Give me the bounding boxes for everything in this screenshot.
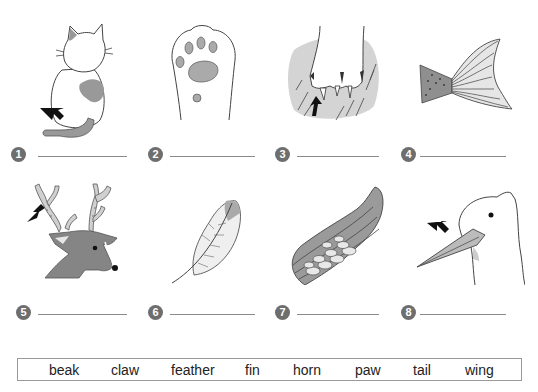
item-number-badge: 4: [401, 147, 416, 162]
item-number-badge: 6: [148, 305, 163, 320]
word-bank: beak claw feather fin horn paw tail wing: [17, 358, 522, 381]
answer-blank-6[interactable]: [170, 314, 255, 315]
word-bank-item: beak: [49, 361, 79, 379]
item-number-badge: 3: [275, 147, 290, 162]
answer-blank-4[interactable]: [420, 156, 506, 157]
deer-horn-illustration: [25, 182, 125, 282]
bird-beak-illustration: [415, 185, 525, 285]
word-bank-item: feather: [171, 361, 215, 379]
word-bank-item: horn: [293, 361, 321, 379]
answer-blank-7[interactable]: [297, 314, 379, 315]
wing-illustration: [285, 185, 395, 285]
cat-paw-illustration: [165, 20, 245, 130]
answer-blank-8[interactable]: [420, 314, 506, 315]
word-bank-item: fin: [245, 361, 260, 379]
feather-illustration: [168, 195, 248, 285]
item-number-badge: 8: [401, 305, 416, 320]
item-number-badge: 1: [11, 147, 26, 162]
word-bank-item: claw: [111, 361, 139, 379]
answer-blank-5[interactable]: [38, 314, 127, 315]
answer-blank-3[interactable]: [297, 156, 379, 157]
answer-blank-1[interactable]: [38, 156, 127, 157]
item-number-badge: 2: [148, 147, 163, 162]
item-number-badge: 7: [275, 305, 290, 320]
answer-blank-2[interactable]: [170, 156, 255, 157]
cat-tail-illustration: [20, 10, 130, 140]
word-bank-item: tail: [413, 361, 431, 379]
item-number-badge: 5: [16, 305, 31, 320]
fish-fin-illustration: [418, 35, 518, 115]
word-bank-item: wing: [465, 361, 494, 379]
word-bank-item: paw: [355, 361, 381, 379]
claw-illustration: [280, 20, 390, 130]
